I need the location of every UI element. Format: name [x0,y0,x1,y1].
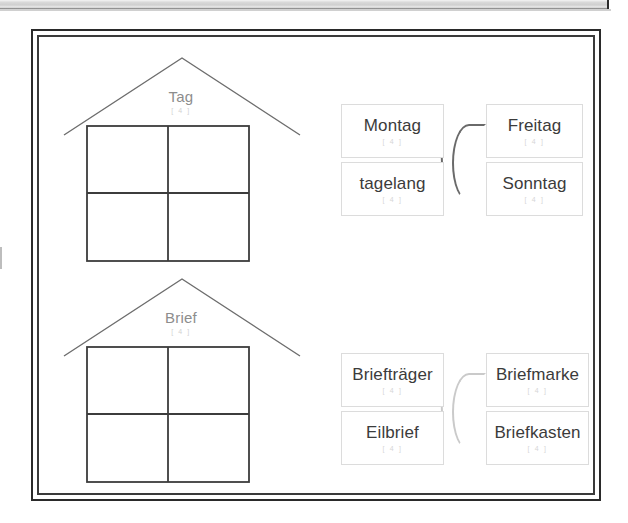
word-card-sublabel: [ 4 ] [382,445,402,452]
word-card-title: Eilbrief [366,424,419,442]
word-card-sublabel: [ 4 ] [382,138,402,145]
word-card-tagelang[interactable]: tagelang [ 4 ] [341,162,444,216]
word-card-briefkasten[interactable]: Briefkasten [ 4 ] [486,411,589,465]
house-diagram-brief[interactable]: Brief [ 4 ] [57,263,305,483]
word-card-montag[interactable]: Montag [ 4 ] [341,104,444,158]
word-cluster-tag: Montag [ 4 ] tagelang [ 4 ] Freitag [ 4 … [341,104,591,254]
scan-edge-shadow [0,9,611,11]
worksheet-outer-frame: Tag [ 4 ] Brief [ 4 ] Montag [31,29,601,501]
house-diagram-tag[interactable]: Tag [ 4 ] [57,47,305,263]
word-card-brieftraeger[interactable]: Briefträger [ 4 ] [341,353,444,407]
left-margin-tick [0,247,2,269]
house-outline-icon [57,263,305,483]
word-card-sublabel: [ 4 ] [524,138,544,145]
scan-edge-strip [0,0,609,9]
word-card-sublabel: [ 4 ] [527,387,547,394]
word-cluster-brief: Briefträger [ 4 ] Eilbrief [ 4 ] Briefma… [341,353,591,493]
word-card-freitag[interactable]: Freitag [ 4 ] [486,104,583,158]
word-card-sublabel: [ 4 ] [524,196,544,203]
word-card-title: Briefmarke [496,366,579,384]
word-card-title: Briefkasten [494,424,580,442]
word-card-title: Montag [364,117,421,135]
word-card-sublabel: [ 4 ] [382,196,402,203]
connector-arc-tag-right [452,124,486,202]
word-card-eilbrief[interactable]: Eilbrief [ 4 ] [341,411,444,465]
word-card-sonntag[interactable]: Sonntag [ 4 ] [486,162,583,216]
worksheet-inner-frame: Tag [ 4 ] Brief [ 4 ] Montag [37,35,595,495]
word-card-title: tagelang [359,175,425,193]
house-outline-icon [57,47,305,263]
word-card-title: Freitag [508,117,562,135]
word-card-title: Briefträger [352,366,432,384]
word-card-sublabel: [ 4 ] [527,445,547,452]
connector-arc-brief-right [452,373,486,451]
word-card-title: Sonntag [502,175,566,193]
word-card-briefmarke[interactable]: Briefmarke [ 4 ] [486,353,589,407]
word-card-sublabel: [ 4 ] [382,387,402,394]
worksheet-canvas: Tag [ 4 ] Brief [ 4 ] Montag [39,37,593,493]
